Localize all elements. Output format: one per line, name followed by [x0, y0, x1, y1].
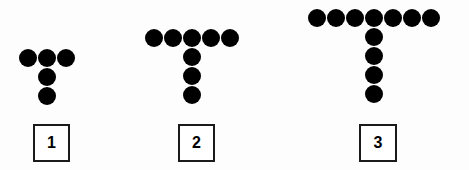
dot: [308, 9, 326, 27]
figure-label-text: 3: [374, 135, 383, 151]
dot: [346, 9, 364, 27]
dot: [365, 9, 383, 27]
dot: [327, 9, 345, 27]
dot: [365, 47, 383, 65]
dot: [365, 66, 383, 84]
figure-label-box-3: 3: [359, 124, 397, 162]
dot: [365, 85, 383, 103]
dot: [422, 9, 440, 27]
figure-3: 3: [0, 0, 469, 170]
dot: [384, 9, 402, 27]
dot: [403, 9, 421, 27]
pattern-sequence-canvas: 123: [0, 0, 469, 170]
dot: [365, 28, 383, 46]
